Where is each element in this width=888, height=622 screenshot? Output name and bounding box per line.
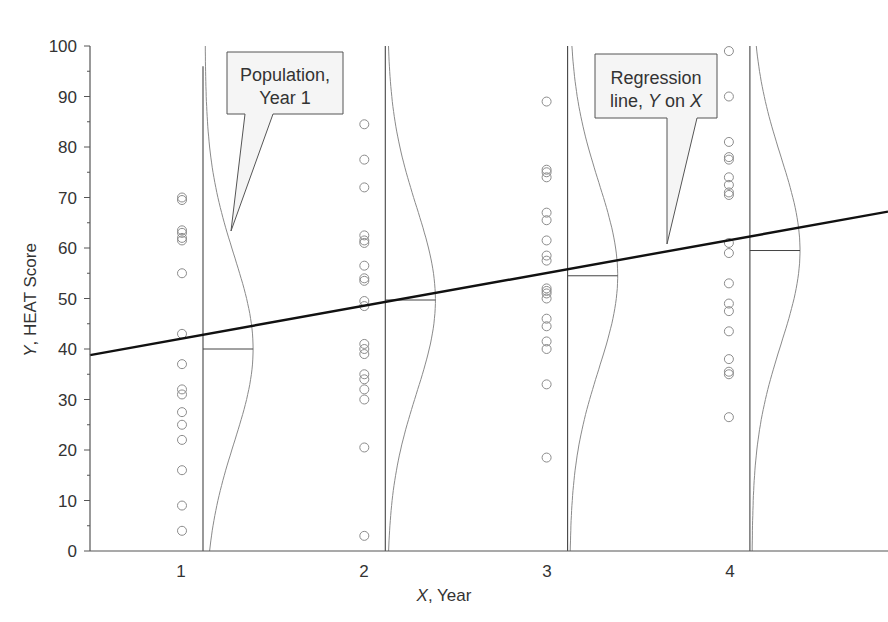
data-point xyxy=(724,413,733,422)
y-tick-label: 70 xyxy=(58,189,77,208)
data-point xyxy=(724,355,733,364)
data-point xyxy=(360,370,369,379)
x-tick-label: 2 xyxy=(359,562,368,581)
y-axis-ticks: 0102030405060708090100 xyxy=(49,37,90,561)
year-baselines xyxy=(203,46,800,551)
data-point xyxy=(360,385,369,394)
data-point xyxy=(178,501,187,510)
y-tick-label: 30 xyxy=(58,391,77,410)
svg-text:Regression: Regression xyxy=(610,68,701,88)
data-point xyxy=(178,420,187,429)
population-curve xyxy=(570,46,618,551)
data-point xyxy=(360,345,369,354)
y-tick-label: 100 xyxy=(49,37,77,56)
y-tick-label: 80 xyxy=(58,138,77,157)
data-point xyxy=(178,466,187,475)
data-point xyxy=(360,261,369,270)
data-point xyxy=(724,279,733,288)
x-tick-label: 3 xyxy=(542,562,551,581)
data-point xyxy=(178,360,187,369)
callout-population-year1: Population, Year 1 xyxy=(227,52,343,231)
data-point xyxy=(360,339,369,348)
svg-text:line, Y on X: line, Y on X xyxy=(610,91,703,111)
data-point xyxy=(178,435,187,444)
data-point xyxy=(178,526,187,535)
population-distributions xyxy=(205,46,800,551)
data-point xyxy=(724,249,733,258)
x-tick-label: 4 xyxy=(725,562,734,581)
data-point xyxy=(542,97,551,106)
population-curve xyxy=(752,46,800,551)
y-tick-label: 10 xyxy=(58,492,77,511)
y-tick-label: 90 xyxy=(58,88,77,107)
data-point xyxy=(178,390,187,399)
svg-text:Population,: Population, xyxy=(240,65,330,85)
population-curve xyxy=(389,46,436,551)
data-point xyxy=(542,251,551,260)
svg-text:Year 1: Year 1 xyxy=(259,88,310,108)
y-tick-label: 50 xyxy=(58,290,77,309)
data-point xyxy=(360,531,369,540)
data-point xyxy=(542,380,551,389)
data-point xyxy=(724,92,733,101)
data-point xyxy=(542,256,551,265)
data-point xyxy=(360,443,369,452)
data-point xyxy=(724,137,733,146)
y-tick-label: 0 xyxy=(68,542,77,561)
x-axis-label: X, Year xyxy=(416,586,472,605)
data-point xyxy=(724,327,733,336)
data-point xyxy=(178,269,187,278)
data-point xyxy=(360,155,369,164)
data-point xyxy=(724,47,733,56)
chart: 0102030405060708090100 1234 X, Year Y, H… xyxy=(0,0,888,622)
y-tick-label: 60 xyxy=(58,239,77,258)
data-point xyxy=(178,385,187,394)
x-axis-ticks: 1234 xyxy=(176,562,734,581)
y-tick-label: 20 xyxy=(58,441,77,460)
y-axis-label: Y, HEAT Score xyxy=(21,243,40,357)
data-point xyxy=(542,236,551,245)
data-point xyxy=(360,375,369,384)
y-tick-label: 40 xyxy=(58,340,77,359)
data-point xyxy=(542,453,551,462)
callout-regression-line: Regression line, Y on X xyxy=(595,54,717,244)
data-point xyxy=(360,183,369,192)
x-tick-label: 1 xyxy=(176,562,185,581)
regression-line-path xyxy=(90,212,888,355)
data-point xyxy=(178,408,187,417)
data-point xyxy=(360,120,369,129)
data-point xyxy=(360,395,369,404)
data-point xyxy=(360,350,369,359)
regression-line xyxy=(90,212,888,355)
